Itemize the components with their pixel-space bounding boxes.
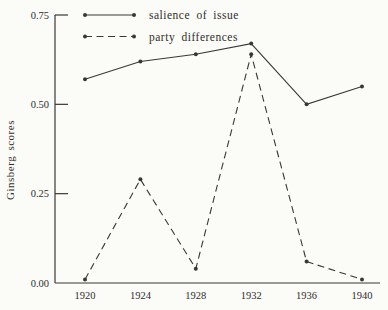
data-point-marker	[249, 52, 253, 56]
data-point-marker	[249, 42, 253, 46]
legend-line-end-dot	[132, 35, 136, 39]
data-point-marker	[305, 260, 309, 264]
x-tick-label: 1920	[75, 290, 96, 301]
data-point-marker	[360, 84, 364, 88]
data-point-marker	[194, 52, 198, 56]
ginsberg-scores-figure: 0.000.250.500.75192019241928193219361940…	[0, 0, 388, 310]
legend-line-end-dot	[132, 13, 136, 17]
legend-line-end-dot	[83, 13, 87, 17]
y-tick-label: 0.00	[31, 278, 49, 289]
data-point-marker	[83, 77, 87, 81]
data-point-marker	[138, 177, 142, 181]
x-tick-label: 1924	[130, 290, 152, 301]
x-tick-label: 1940	[352, 290, 373, 301]
line-chart: 0.000.250.500.75192019241928193219361940…	[0, 0, 388, 310]
data-point-marker	[83, 277, 87, 281]
y-tick-label: 0.75	[31, 10, 49, 21]
y-tick-label: 0.50	[31, 99, 49, 110]
data-point-marker	[138, 59, 142, 63]
data-point-marker	[194, 267, 198, 271]
legend-label: party differences	[149, 31, 238, 44]
legend-label: salience of issue	[149, 9, 239, 21]
x-tick-label: 1928	[185, 290, 206, 301]
y-tick-label: 0.25	[31, 188, 49, 199]
y-axis-title: Ginsberg scores	[4, 120, 16, 200]
series-line-salience	[85, 44, 362, 105]
series-line-party-differences	[85, 54, 362, 279]
data-point-marker	[305, 102, 309, 106]
x-tick-label: 1936	[296, 290, 317, 301]
legend-line-end-dot	[83, 35, 87, 39]
x-tick-label: 1932	[241, 290, 262, 301]
data-point-marker	[360, 277, 364, 281]
